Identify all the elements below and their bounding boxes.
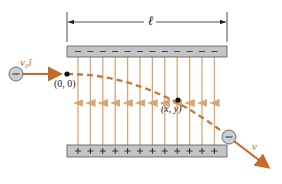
final-velocity-label: v bbox=[252, 140, 257, 152]
final-velocity-arrow bbox=[234, 141, 268, 167]
position-point bbox=[175, 97, 180, 102]
bottom-plate-positive bbox=[67, 145, 227, 157]
initial-velocity-label: v₀î bbox=[20, 56, 32, 68]
origin-point bbox=[64, 71, 69, 76]
electron-outgoing bbox=[222, 130, 236, 144]
electric-field-lines bbox=[78, 57, 214, 145]
length-label: ℓ bbox=[146, 13, 155, 29]
electron-incoming bbox=[9, 67, 23, 81]
position-label: (x, y) bbox=[161, 103, 182, 114]
origin-label: (0, 0) bbox=[54, 78, 76, 89]
electron-trajectory bbox=[67, 74, 229, 137]
top-plate-negative bbox=[67, 46, 227, 57]
diagram-canvas bbox=[0, 0, 282, 184]
